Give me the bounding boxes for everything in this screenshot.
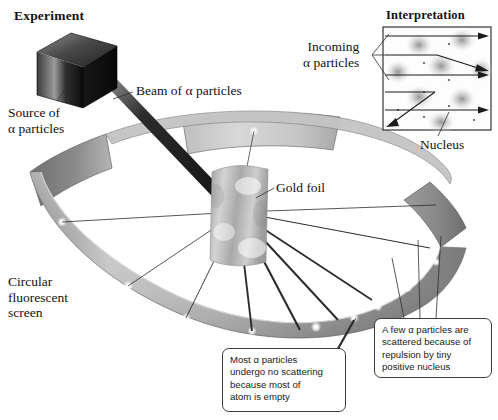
callout-most-no-scattering: Most α particles undergo no scattering b… <box>222 348 346 412</box>
gold-foil-label: Gold foil <box>276 180 325 196</box>
fluorescent-screen-right <box>404 182 466 247</box>
alpha-source-box <box>37 33 117 108</box>
gold-foil <box>208 166 271 266</box>
nucleus-label: Nucleus <box>420 137 464 153</box>
experiment-title: Experiment <box>14 8 84 24</box>
interpretation-title: Interpretation <box>386 8 465 23</box>
incoming-particles-label: Incoming α particles <box>303 39 359 70</box>
source-label: Source of α particles <box>8 105 64 136</box>
callout-few-scattered: A few α particles are scattered because … <box>374 318 492 378</box>
beam-label: Beam of α particles <box>136 83 242 99</box>
screen-label: Circular fluorescent screen <box>8 274 68 321</box>
figure-canvas: Experiment Interpretation Source of α pa… <box>0 0 498 420</box>
interpretation-panel <box>372 27 494 136</box>
